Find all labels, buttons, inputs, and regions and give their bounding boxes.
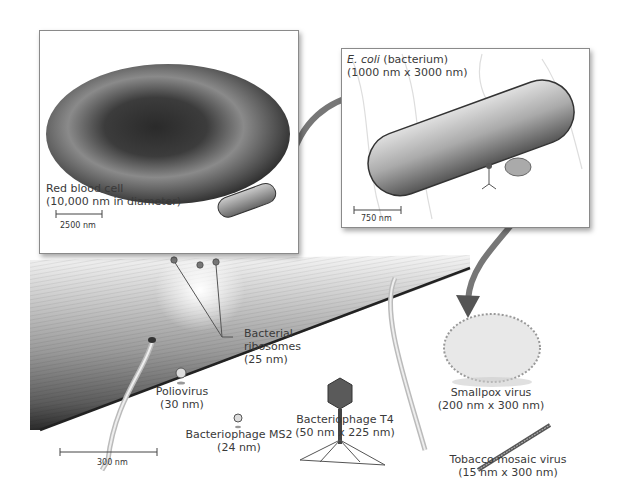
- ecoli-label-italic: E. coli: [347, 53, 380, 66]
- ms2-label-line2: (24 nm): [180, 441, 298, 454]
- ecoli-bacterium-icon: [359, 71, 583, 205]
- rbc-label-line2: (10,000 nm in diameter): [46, 195, 181, 208]
- smallpox-label-line2: (200 nm x 300 nm): [434, 399, 548, 412]
- poliovirus-label-line2: (30 nm): [150, 398, 214, 411]
- poliovirus-icon: [176, 368, 186, 378]
- ecoli-label-line2: (1000 nm x 3000 nm): [347, 66, 467, 79]
- tmv-label-line2: (15 nm x 300 nm): [448, 466, 568, 479]
- rbc-scale-bar: [56, 210, 102, 218]
- ecoli-panel: E. coli (bacterium) (1000 nm x 3000 nm) …: [341, 48, 590, 228]
- ecoli-scale-label: 750 nm: [361, 214, 392, 223]
- smallpox-small-icon: [505, 158, 531, 176]
- ecoli-label-rest: (bacterium): [380, 53, 448, 66]
- t4-label-line1: Bacteriophage T4: [292, 413, 398, 426]
- zoom-arrow-icon-2: [456, 295, 480, 318]
- ribosomes-label-line1: Bacterial: [244, 327, 293, 340]
- smallpox-virus-icon: [444, 314, 540, 387]
- smallpox-label-line1: Smallpox virus: [434, 386, 548, 399]
- ms2-label-line1: Bacteriophage MS2: [180, 428, 298, 441]
- rbc-scale-label: 2500 nm: [60, 221, 96, 230]
- main-scale-label: 300 nm: [97, 458, 128, 467]
- ecoli-scale-bar: [354, 206, 401, 214]
- red-blood-cell-panel: Red blood cell (10,000 nm in diameter) 2…: [39, 30, 299, 254]
- poliovirus-label-line1: Poliovirus: [150, 385, 214, 398]
- ribosomes-label-line2: ribosomes: [244, 340, 301, 353]
- ecoli-label-line1: E. coli (bacterium): [347, 53, 448, 66]
- t4-label-line2: (50 nm x 225 nm): [292, 426, 398, 439]
- ribosomes-label-line3: (25 nm): [244, 353, 288, 366]
- tmv-label-line1: Tobacco mosaic virus: [448, 453, 568, 466]
- rbc-label-line1: Red blood cell: [46, 182, 123, 195]
- ms2-icon: [234, 414, 242, 422]
